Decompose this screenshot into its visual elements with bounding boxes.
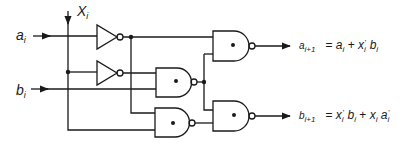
- input-label-a: ai: [16, 28, 26, 45]
- input-label-b: bi: [16, 83, 26, 100]
- junction-dots: [66, 35, 206, 84]
- output-label-b-next: bi+1: [299, 110, 315, 121]
- inverter-1: [97, 25, 123, 49]
- x-input-wire: [68, 11, 155, 130]
- logic-circuit-diagram: [0, 0, 416, 146]
- output-label-a-next: ai+1: [299, 40, 315, 51]
- input-label-x: Xi: [77, 4, 88, 21]
- inverter-2: [97, 61, 123, 85]
- output-equation-b: bi+1 = xi' bi + xi ai': [299, 109, 390, 124]
- nand-gate-3: [155, 108, 195, 137]
- output-equation-a: ai+1 = ai + xi' bi: [299, 39, 378, 54]
- inverter-1-output-wire: [123, 37, 213, 113]
